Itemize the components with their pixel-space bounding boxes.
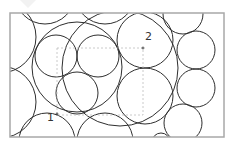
circle-inner-right — [77, 35, 119, 77]
circle-big-left — [32, 22, 122, 112]
point-marker-2 — [142, 47, 145, 50]
circle-top-2 — [75, 0, 135, 24]
faint-arrow-marker — [20, 0, 36, 8]
circle-bottom-small — [152, 133, 170, 146]
circle-bottom-2 — [77, 113, 133, 146]
circle-inner-left — [35, 35, 77, 77]
point-label-1: 1 — [47, 111, 54, 124]
circle-inner-bottom — [56, 72, 98, 114]
circles-group — [0, 0, 215, 146]
circle-right-2 — [177, 31, 215, 69]
circle-right-top — [163, 0, 203, 34]
circle-packing-diagram: 12 — [0, 0, 234, 146]
dashed-guide-rect — [57, 48, 143, 115]
point-label-2: 2 — [145, 30, 152, 43]
circle-right-3 — [177, 69, 215, 107]
circle-left-bottom — [0, 66, 36, 138]
circle-left-top — [0, 1, 36, 73]
circle-mid-bottom — [117, 68, 173, 124]
